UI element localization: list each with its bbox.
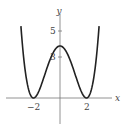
function-graph: y x 5 3 −2 2 — [0, 0, 127, 129]
x-tick-label-neg2: −2 — [27, 102, 40, 112]
x-tick-label-2: 2 — [84, 102, 90, 112]
y-axis-label: y — [56, 6, 63, 16]
y-tick-label-3: 3 — [50, 52, 56, 62]
x-axis-label: x — [115, 93, 120, 103]
y-tick-label-5: 5 — [50, 26, 56, 36]
